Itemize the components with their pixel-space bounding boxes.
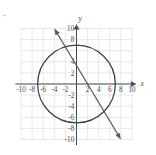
svg-text:-6: -6	[68, 114, 74, 122]
graph-figure: + -10-8-6-4-224681010842-2-4-6-8-10 xy	[0, 0, 156, 155]
svg-text:2: 2	[71, 70, 75, 78]
svg-text:-4: -4	[68, 103, 74, 111]
svg-text:8: 8	[119, 86, 123, 94]
svg-text:-8: -8	[68, 125, 74, 133]
coordinate-plane-svg: -10-8-6-4-224681010842-2-4-6-8-10 xy	[0, 0, 156, 155]
svg-text:4: 4	[97, 86, 101, 94]
svg-text:-10: -10	[16, 86, 26, 94]
svg-text:-4: -4	[51, 86, 57, 94]
svg-text:-6: -6	[40, 86, 46, 94]
svg-text:8: 8	[71, 36, 75, 44]
svg-text:10: 10	[128, 86, 136, 94]
svg-text:-2: -2	[68, 92, 74, 100]
svg-text:x: x	[139, 79, 144, 88]
svg-text:-8: -8	[29, 86, 35, 94]
svg-text:-10: -10	[65, 136, 75, 144]
svg-text:6: 6	[108, 86, 112, 94]
svg-text:10: 10	[67, 25, 75, 33]
svg-text:y: y	[78, 14, 83, 23]
